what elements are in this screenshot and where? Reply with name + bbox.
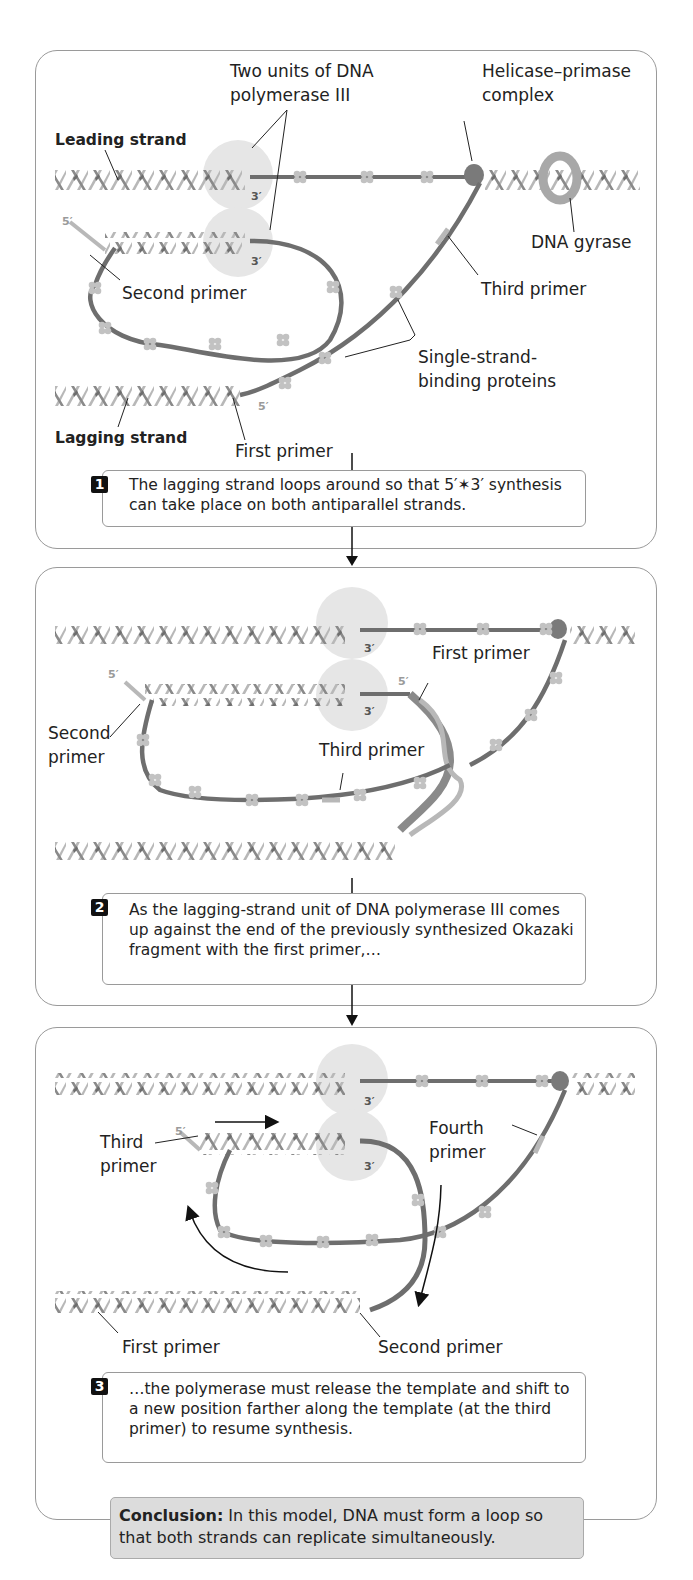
label-ssb-line1: Single-strand- <box>418 347 537 368</box>
label-second-primer-line2: primer <box>48 747 105 768</box>
label-third-primer: Third primer <box>319 740 424 761</box>
label-3prime: 3′ <box>364 705 375 718</box>
step-3-caption: 3 …the polymerase must release the templ… <box>102 1372 586 1463</box>
step-number-badge: 3 <box>91 1378 108 1395</box>
okazaki-helix <box>145 684 345 706</box>
label-5prime: 5′ <box>108 668 119 681</box>
label-5prime: 5′ <box>175 1125 186 1138</box>
parental-helix <box>485 168 640 190</box>
flow-arrow-icon <box>346 556 358 566</box>
label-ssb-line2: binding proteins <box>418 371 556 392</box>
label-third-primer: Third primer <box>481 279 586 300</box>
label-first-primer: First primer <box>432 643 530 664</box>
leading-helix <box>55 622 345 644</box>
helicase-primase-icon <box>464 164 484 186</box>
label-5prime: 5′ <box>398 675 409 688</box>
step-2-caption: 2 As the lagging-strand unit of DNA poly… <box>102 893 586 985</box>
label-3prime: 3′ <box>251 190 262 203</box>
label-third-primer-line2: primer <box>100 1156 157 1177</box>
label-dna-gyrase: DNA gyrase <box>531 232 631 253</box>
label-3prime: 3′ <box>364 642 375 655</box>
lagging-helix <box>55 1291 360 1313</box>
label-3prime: 3′ <box>364 1095 375 1108</box>
panel3-diagram <box>55 1044 635 1337</box>
step-number-badge: 2 <box>91 899 108 916</box>
label-5prime: 5′ <box>258 400 269 413</box>
helicase-primase-icon <box>549 619 567 639</box>
flow-arrow-icon <box>346 1015 358 1026</box>
label-second-primer-line1: Second <box>48 723 111 744</box>
label-leading-strand: Leading strand <box>55 130 187 151</box>
lagging-helix <box>55 385 240 407</box>
label-third-primer-line1: Third <box>100 1132 143 1153</box>
step-1-caption: 1 The lagging strand loops around so tha… <box>102 470 586 527</box>
label-second-primer: Second primer <box>378 1337 502 1358</box>
label-second-primer: Second primer <box>122 283 246 304</box>
label-lagging-strand: Lagging strand <box>55 428 187 449</box>
label-helicase-primase-line2: complex <box>482 85 554 106</box>
parental-helix <box>572 1073 635 1095</box>
label-polymerase-iii-line1: Two units of DNA <box>230 61 374 82</box>
okazaki-helix <box>200 1133 345 1155</box>
leading-helix <box>55 168 245 190</box>
conclusion-box: Conclusion: In this model, DNA must form… <box>110 1497 584 1559</box>
label-fourth-primer-line2: primer <box>429 1142 486 1163</box>
step-2-text: As the lagging-strand unit of DNA polyme… <box>129 901 574 959</box>
label-helicase-primase-line1: Helicase–primase <box>482 61 631 82</box>
label-3prime: 3′ <box>364 1160 375 1173</box>
label-first-primer: First primer <box>122 1337 220 1358</box>
label-fourth-primer-line1: Fourth <box>429 1118 484 1139</box>
leading-helix <box>55 1073 345 1095</box>
lagging-helix <box>55 838 395 860</box>
okazaki-helix <box>105 232 245 254</box>
label-3prime: 3′ <box>251 255 262 268</box>
label-first-primer: First primer <box>235 441 333 462</box>
label-polymerase-iii-line2: polymerase III <box>230 85 350 106</box>
step-1-text: The lagging strand loops around so that … <box>129 476 562 514</box>
step-number-badge: 1 <box>91 476 108 493</box>
helicase-primase-icon <box>551 1071 569 1091</box>
parental-helix <box>570 622 635 644</box>
step-3-text: …the polymerase must release the templat… <box>129 1380 569 1438</box>
label-5prime: 5′ <box>62 215 73 228</box>
conclusion-label: Conclusion: <box>119 1506 223 1525</box>
